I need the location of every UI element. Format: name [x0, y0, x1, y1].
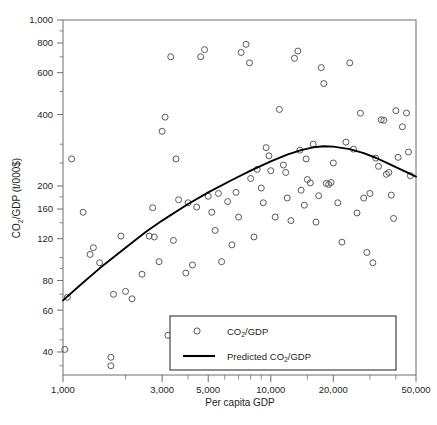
y-tick-label: 800 [37, 37, 53, 48]
y-tick-label: 80 [42, 275, 53, 286]
legend-scatter-label: CO2/GDP [227, 326, 268, 339]
x-axis-ticks: 1,0003,0005,00010,00020,00050,000 [51, 375, 430, 395]
x-axis-title: Per capita GDP [205, 397, 275, 408]
y-tick-label: 40 [42, 346, 53, 357]
y-axis-ticks: 1,000800600400200160120806040 [29, 14, 63, 357]
legend-line-label: Predicted CO2/GDP [227, 351, 311, 364]
y-tick-label: 200 [37, 180, 53, 191]
x-axis-minor-ticks [126, 375, 396, 380]
x-tick-label: 10,000 [256, 384, 285, 395]
x-tick-label: 1,000 [51, 384, 75, 395]
legend-box [170, 316, 396, 370]
y-tick-label: 120 [37, 233, 53, 244]
y-tick-label: 60 [42, 305, 53, 316]
x-tick-label: 50,000 [401, 384, 430, 395]
y-tick-label: 600 [37, 67, 53, 78]
co2-gdp-scatter-chart: 1,000800600400200160120806040 1,0003,000… [0, 0, 437, 425]
y-tick-label: 1,000 [29, 14, 53, 25]
x-tick-label: 20,000 [319, 384, 348, 395]
y-axis-minor-ticks [60, 31, 64, 366]
x-tick-label: 5,000 [196, 384, 220, 395]
y-tick-label: 160 [37, 203, 53, 214]
y-axis-title: CO2/GDP (t/000$) [11, 158, 24, 238]
x-tick-label: 3,000 [150, 384, 174, 395]
y-tick-label: 400 [37, 109, 53, 120]
chart-figure: 1,000800600400200160120806040 1,0003,000… [0, 0, 437, 425]
legend: CO2/GDP Predicted CO2/GDP [170, 316, 396, 370]
